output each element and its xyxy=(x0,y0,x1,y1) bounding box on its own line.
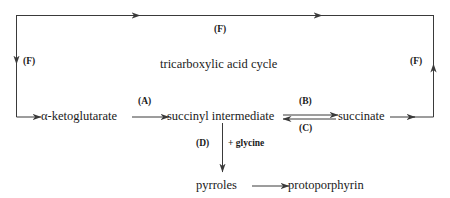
node-succinate: succinate xyxy=(338,109,385,123)
node-succinyl-intermediate: succinyl intermediate xyxy=(167,109,274,123)
step-label-d: (D) xyxy=(196,138,209,149)
node-protoporphyrin: protoporphyrin xyxy=(288,178,364,192)
step-label-f-left: (F) xyxy=(23,56,35,67)
step-label-f-right: (F) xyxy=(410,56,422,67)
metabolic-pathway-diagram: tricarboxylic acid cycle α-ketoglutarate… xyxy=(0,0,450,198)
step-label-b: (B) xyxy=(299,96,312,107)
step-label-f-top: (F) xyxy=(214,24,226,35)
cycle-title: tricarboxylic acid cycle xyxy=(160,57,277,71)
node-alpha-ketoglutarate: α-ketoglutarate xyxy=(41,109,117,123)
step-label-c: (C) xyxy=(299,123,312,134)
step-label-a: (A) xyxy=(138,96,151,107)
cofactor-glycine-label: + glycine xyxy=(228,138,264,149)
node-pyrroles: pyrroles xyxy=(196,178,237,192)
